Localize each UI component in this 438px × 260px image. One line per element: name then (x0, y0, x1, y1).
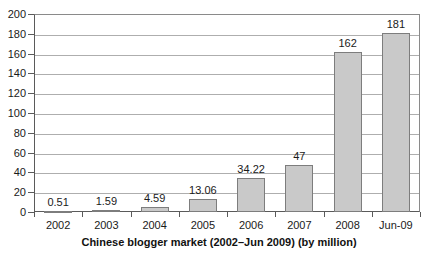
y-axis-tick (28, 54, 34, 55)
y-axis-tick (28, 73, 34, 74)
y-axis-tick-label: 60 (0, 148, 26, 159)
bar (92, 210, 120, 212)
y-axis-tick-label: 120 (0, 88, 26, 99)
x-axis-tick (372, 212, 373, 217)
y-axis-tick-label: 100 (0, 108, 26, 119)
bar (334, 52, 362, 212)
y-axis-tick (28, 133, 34, 134)
y-axis-tick-label: 160 (0, 49, 26, 60)
y-axis-tick (28, 172, 34, 173)
bar-chart: 020406080100120140160180200 0.511.594.59… (0, 0, 438, 260)
y-axis-tick (28, 93, 34, 94)
bar (189, 199, 217, 212)
y-axis-tick (28, 153, 34, 154)
bar (237, 178, 265, 212)
y-axis-tick (28, 34, 34, 35)
x-axis-tick (324, 212, 325, 217)
x-axis-tick (131, 212, 132, 217)
x-axis-tick (227, 212, 228, 217)
y-axis-tick (28, 113, 34, 114)
y-axis-tick-label: 40 (0, 167, 26, 178)
bar (44, 211, 72, 213)
bar-value-label: 47 (271, 151, 327, 162)
y-axis-tick-label: 20 (0, 187, 26, 198)
bar (285, 165, 313, 212)
y-axis-tick-label: 200 (0, 9, 26, 20)
x-axis-tick (275, 212, 276, 217)
x-axis-title: Chinese blogger market (2002–Jun 2009) (… (0, 236, 438, 248)
y-axis-tick-label: 80 (0, 128, 26, 139)
bar-value-label: 162 (320, 38, 376, 49)
bar (382, 33, 410, 212)
x-axis-tick (82, 212, 83, 217)
y-axis-tick-label: 140 (0, 68, 26, 79)
x-axis-tick (420, 212, 421, 217)
bar-value-label: 34.22 (223, 164, 279, 175)
y-axis-tick-label: 0 (0, 207, 26, 218)
bar (141, 207, 169, 212)
x-axis-tick-label: Jun-09 (368, 219, 424, 231)
bar-value-label: 181 (368, 19, 424, 30)
y-axis-tick (28, 192, 34, 193)
bar-value-label: 13.06 (175, 185, 231, 196)
x-axis-tick (179, 212, 180, 217)
y-axis-tick-label: 180 (0, 29, 26, 40)
gridline (35, 35, 419, 36)
x-axis-tick (34, 212, 35, 217)
y-axis-tick (28, 14, 34, 15)
